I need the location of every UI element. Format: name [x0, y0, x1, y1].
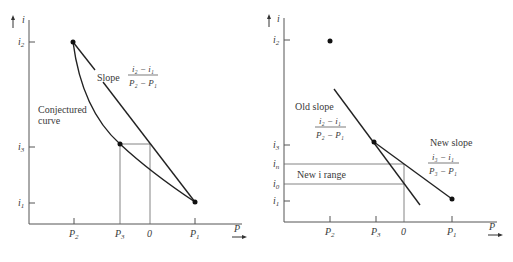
left-xtick-p1: P1 — [189, 228, 200, 241]
old-slope-line — [334, 89, 420, 205]
point-p2-i2 — [71, 40, 76, 45]
right-point-p3-i3 — [372, 140, 377, 145]
left-y-axis-label: i — [22, 14, 25, 25]
new-slope-numerator: i₃ − i₁ — [432, 152, 454, 162]
left-ytick-i1: i1 — [18, 197, 24, 210]
right-xtick-p3: P3 — [370, 226, 381, 239]
left-panel: i P i2 i3 i1 P2 P3 0 P1 — [11, 14, 247, 241]
old-slope-label: Old slope — [295, 101, 334, 112]
right-ytick-i0: i0 — [273, 178, 280, 191]
right-ytick-i2: i2 — [273, 34, 280, 47]
right-xtick-zero: 0 — [401, 226, 406, 237]
slope-chord-lower — [103, 82, 195, 202]
left-ytick-i2: i2 — [18, 36, 25, 49]
left-xtick-p2: P2 — [68, 228, 79, 241]
right-x-axis-label: P — [488, 221, 495, 232]
left-y-arrow-icon — [11, 15, 15, 28]
slope-label: Slope — [97, 72, 120, 83]
left-xtick-zero: 0 — [147, 228, 152, 239]
slope-numerator: i₂ − i₁ — [132, 64, 154, 74]
right-xtick-p1: P1 — [446, 226, 457, 239]
new-i-range-label: New i range — [297, 169, 346, 180]
right-point-p2-i2 — [328, 39, 333, 44]
left-ytick-i3: i3 — [18, 141, 25, 154]
left-x-axis-label: P — [233, 223, 240, 234]
right-x-arrow-icon — [488, 233, 503, 237]
right-panel: i P i2 i3 in i0 i1 P2 P3 0 P1 — [267, 13, 503, 239]
diagram-canvas: i P i2 i3 i1 P2 P3 0 P1 — [0, 0, 513, 262]
left-xtick-p3: P3 — [114, 228, 125, 241]
point-p1-i1 — [193, 200, 198, 205]
right-y-axis-label: i — [277, 13, 280, 24]
new-slope-denominator: P₃ − P₁ — [428, 166, 457, 176]
left-x-arrow-icon — [232, 235, 247, 239]
right-ytick-in: in — [273, 158, 280, 171]
slope-chord-upper — [73, 42, 95, 70]
old-slope-denominator: P₂ − P₁ — [315, 130, 344, 140]
right-y-arrow-icon — [267, 14, 271, 27]
old-slope-numerator: i₂ − i₁ — [319, 116, 341, 126]
point-p3-i3 — [118, 142, 123, 147]
right-ytick-i3: i3 — [273, 139, 280, 152]
new-slope-label: New slope — [430, 137, 473, 148]
conjectured-curve-label-line2: curve — [38, 115, 61, 126]
right-point-p1-i1 — [450, 197, 455, 202]
right-ytick-i1: i1 — [273, 195, 279, 208]
conjectured-curve-label-line1: Conjectured — [38, 104, 87, 115]
right-xtick-p2: P2 — [324, 226, 335, 239]
slope-denominator: P₂ − P₁ — [128, 78, 157, 88]
